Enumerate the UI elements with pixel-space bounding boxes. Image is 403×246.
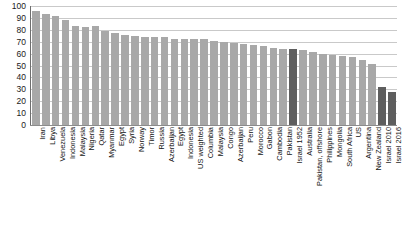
x-label-slot: Columbia (199, 127, 209, 242)
bar (329, 55, 337, 125)
bar-slot (298, 6, 308, 125)
x-label-slot: South Africa (338, 127, 348, 242)
bar (339, 56, 347, 125)
bar-slot (268, 6, 278, 125)
bar-slot (199, 6, 209, 125)
bar (220, 42, 228, 125)
bar (240, 44, 248, 125)
bar-slot (100, 6, 110, 125)
bar-slot (90, 6, 100, 125)
bar-slot (31, 6, 41, 125)
x-label-slot: Pakistan (278, 127, 288, 242)
bar-slot (140, 6, 150, 125)
bar (161, 37, 169, 125)
y-axis-tick-label: 70 (17, 37, 26, 46)
bar (388, 92, 396, 125)
bar (52, 16, 60, 125)
bar-slot (387, 6, 397, 125)
bar (200, 39, 208, 125)
bar-slot (130, 6, 140, 125)
x-label-slot: Gabon (258, 127, 268, 242)
y-axis-tick-label: 10 (17, 109, 26, 118)
bar (270, 48, 278, 125)
bar (131, 36, 139, 125)
x-label-slot: Argentina (357, 127, 367, 242)
bar-slot (367, 6, 377, 125)
bar (309, 52, 317, 125)
y-axis-tick-label: 0 (21, 121, 26, 130)
bar-slot (61, 6, 71, 125)
x-label-slot: Myanmar (100, 127, 110, 242)
bar-slot (229, 6, 239, 125)
bar-slot (239, 6, 249, 125)
x-label-slot: Indonesia (61, 127, 71, 242)
bar-slot (160, 6, 170, 125)
x-label-slot: Azerbaijan (160, 127, 170, 242)
bar (141, 37, 149, 125)
x-label-slot: Australia (298, 127, 308, 242)
bar (279, 49, 287, 125)
bar-slot (249, 6, 259, 125)
bar (151, 37, 159, 125)
bar-slot (209, 6, 219, 125)
x-axis-baseline (30, 125, 397, 126)
bar (111, 33, 119, 125)
bar-slot (219, 6, 229, 125)
x-label-slot: Syria (120, 127, 130, 242)
bar-slot (278, 6, 288, 125)
bar (378, 87, 386, 125)
bar (359, 60, 367, 125)
bar-slot (328, 6, 338, 125)
x-label-slot: Egypt (169, 127, 179, 242)
bar (121, 35, 129, 125)
bar-slot (288, 6, 298, 125)
x-label-slot: US (348, 127, 358, 242)
bar-slot (80, 6, 90, 125)
y-axis-tick-label: 50 (17, 61, 26, 70)
bar (82, 27, 90, 125)
x-label-slot: Morocco (249, 127, 259, 242)
x-label-slot: Nigeria (80, 127, 90, 242)
y-axis-tick-label: 20 (17, 97, 26, 106)
x-label-slot: Norway (130, 127, 140, 242)
y-axis-tick-label: 90 (17, 14, 26, 23)
bar-series (31, 6, 397, 125)
bar (72, 26, 80, 125)
bar-slot (258, 6, 268, 125)
bar-slot (169, 6, 179, 125)
x-label-slot: Russia (150, 127, 160, 242)
bar-slot (308, 6, 318, 125)
x-label-slot: Cambodia (268, 127, 278, 242)
bar (299, 50, 307, 125)
bar (349, 57, 357, 125)
x-label-slot: Pakistan, offshore (308, 127, 318, 242)
bar-slot (338, 6, 348, 125)
bar (42, 14, 50, 125)
x-label-slot: Libya (41, 127, 51, 242)
bar-slot (179, 6, 189, 125)
bar (181, 39, 189, 125)
x-label-slot: Israel 2010 (377, 127, 387, 242)
x-label-slot: Indonesia (179, 127, 189, 242)
bar-slot (71, 6, 81, 125)
bar (101, 31, 109, 125)
bar (32, 11, 40, 125)
x-label-slot: Malaysia (71, 127, 81, 242)
y-axis: 0102030405060708090100 (0, 0, 29, 131)
x-label-slot: Timor (140, 127, 150, 242)
bar-slot (377, 6, 387, 125)
y-axis-tick-label: 30 (17, 85, 26, 94)
x-label-slot: Israel 1952 (288, 127, 298, 242)
bar-slot (51, 6, 61, 125)
x-label-slot: Mongolia (328, 127, 338, 242)
bar (190, 39, 198, 125)
bar-slot (41, 6, 51, 125)
y-axis-tick-label: 40 (17, 73, 26, 82)
x-axis-tick-label: Israel 2016 (395, 127, 402, 164)
bar (250, 45, 258, 125)
x-label-slot: Venezuela (51, 127, 61, 242)
bar-slot (110, 6, 120, 125)
bar-slot (348, 6, 358, 125)
x-label-slot: Peru (239, 127, 249, 242)
bar-slot (189, 6, 199, 125)
